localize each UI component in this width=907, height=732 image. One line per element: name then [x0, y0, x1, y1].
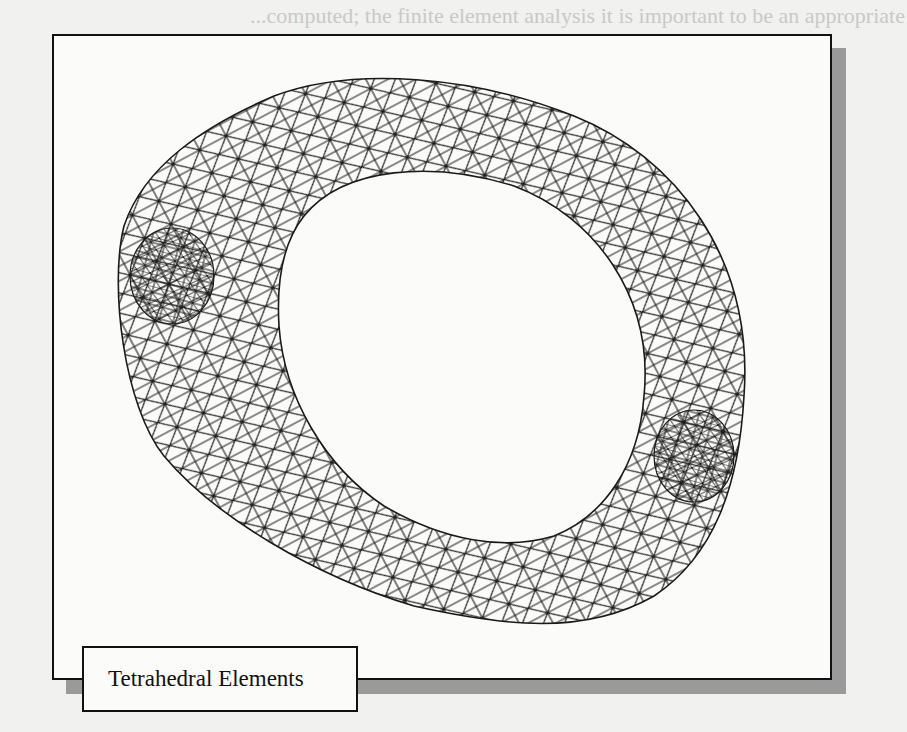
figure-caption: Tetrahedral Elements — [108, 666, 304, 692]
background-text-line: ...computed; the finite element analysis… — [250, 4, 905, 28]
figure-caption-box: Tetrahedral Elements — [82, 646, 358, 712]
tetrahedral-mesh-diagram — [54, 36, 830, 678]
figure-frame: Tetrahedral Elements — [52, 34, 832, 680]
